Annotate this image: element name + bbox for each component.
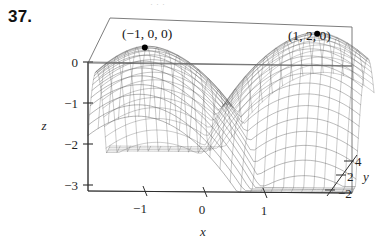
surface-plot-svg: 0 −1 −2 −3 z −1 0 1 x −2 2 4 — [0, 0, 376, 243]
left-peak-marker-dot — [142, 44, 148, 50]
mesh-line — [271, 42, 293, 193]
mesh-line — [108, 57, 372, 150]
x-tick-label-1: 1 — [261, 203, 268, 218]
figure-container: · · · 37. 0 −1 −2 − — [0, 0, 376, 243]
mesh-line — [291, 33, 313, 192]
x-axis-label: x — [199, 224, 206, 239]
z-axis — [83, 62, 93, 191]
x-tick-labels: −1 0 1 — [133, 201, 267, 218]
z-tick-labels: 0 −1 −2 −3 — [64, 55, 78, 193]
mesh-line — [109, 64, 373, 148]
z-axis-label: z — [40, 118, 46, 133]
mesh-line — [261, 48, 283, 192]
x-tick-label-minus1: −1 — [133, 201, 147, 216]
right-peak-annotation: (1, 2, 0) — [288, 28, 331, 43]
z-tick-label-minus2: −2 — [64, 137, 78, 152]
mesh-line — [88, 71, 110, 153]
z-tick-label-0: 0 — [72, 55, 79, 70]
z-tick-label-minus1: −1 — [64, 96, 78, 111]
x-tick-1 — [263, 188, 267, 198]
y-tick-label-4: 4 — [355, 154, 362, 169]
z-tick-label-minus3: −3 — [64, 178, 78, 193]
y-tick-label-minus2: −2 — [338, 186, 352, 201]
left-peak-annotation: (−1, 0, 0) — [122, 26, 172, 41]
surface-wireframe-mesh — [88, 32, 374, 193]
y-axis-label: y — [361, 169, 369, 184]
x-tick-label-0: 0 — [199, 202, 206, 217]
mesh-line — [281, 37, 303, 193]
mesh-line — [118, 51, 140, 152]
y-tick-label-2: 2 — [347, 169, 354, 184]
